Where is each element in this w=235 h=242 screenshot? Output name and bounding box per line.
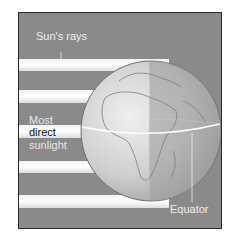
most-label: Most xyxy=(29,114,53,126)
sun-rays-label: Sun's rays xyxy=(36,30,87,42)
equator-label: Equator xyxy=(170,203,209,215)
diagram-frame: Sun's rays Most direct sunlight Equator xyxy=(18,12,222,229)
earth-globe xyxy=(81,56,222,206)
sunlight-label: sunlight xyxy=(29,139,67,151)
direct-label: direct xyxy=(29,126,56,138)
